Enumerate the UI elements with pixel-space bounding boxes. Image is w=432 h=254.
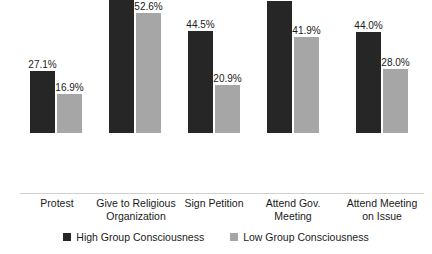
bar-group-sign-petition: 44.5% 20.9%	[184, 0, 244, 133]
x-axis-label-line: Protest	[20, 197, 94, 210]
bar-high[interactable]	[267, 1, 292, 133]
bar-low[interactable]	[383, 69, 408, 133]
bar-wrap-low[interactable]: 41.9%	[294, 0, 319, 133]
bar-low[interactable]	[57, 94, 82, 133]
bar-wrap-high[interactable]: 72.7%	[109, 0, 134, 133]
bar-group-attend-meeting-on-issue: 44.0% 28.0%	[352, 0, 412, 133]
chart-legend: High Group Consciousness Low Group Consc…	[0, 231, 432, 243]
bar-value-label: 44.0%	[354, 20, 382, 31]
bar-value-label: 28.0%	[381, 57, 409, 68]
bar-wrap-low[interactable]: 52.6%	[136, 0, 161, 133]
bar-group-give-to-religious-organization: 72.7% 52.6%	[105, 0, 165, 133]
x-axis-label-sign-petition: Sign Petition	[177, 197, 251, 210]
x-axis-label-line: Attend Gov.	[253, 197, 333, 210]
bar-wrap-low[interactable]: 20.9%	[215, 0, 240, 133]
bar-wrap-high[interactable]: 27.1%	[30, 0, 55, 133]
x-axis-label-line: Attend Meeting	[337, 197, 427, 210]
x-axis-label-line: Sign Petition	[177, 197, 251, 210]
legend-item-high-group-consciousness[interactable]: High Group Consciousness	[63, 231, 204, 243]
bar-high[interactable]	[109, 0, 134, 133]
bar-low[interactable]	[215, 85, 240, 133]
bar-high[interactable]	[188, 31, 213, 133]
bar-value-label: 20.9%	[213, 73, 241, 84]
plot-area: 27.1% 16.9% 72.7% 52.6% 44.5%	[0, 0, 432, 194]
bar-low[interactable]	[136, 13, 161, 133]
x-axis-label-line: on Issue	[337, 210, 427, 223]
legend-label: High Group Consciousness	[76, 231, 204, 243]
x-axis-label-attend-gov-meeting: Attend Gov. Meeting	[253, 197, 333, 223]
bar-wrap-high[interactable]: 57.6%	[267, 0, 292, 133]
bar-high[interactable]	[356, 32, 381, 133]
bar-value-label: 16.9%	[55, 82, 83, 93]
square-light-icon	[230, 233, 238, 241]
bar-wrap-high[interactable]: 44.5%	[188, 0, 213, 133]
bar-value-label: 41.9%	[292, 25, 320, 36]
bar-wrap-low[interactable]: 16.9%	[57, 0, 82, 133]
x-axis-label-attend-meeting-on-issue: Attend Meeting on Issue	[337, 197, 427, 223]
bar-value-label: 27.1%	[28, 59, 56, 70]
bar-high[interactable]	[30, 71, 55, 133]
bar-wrap-low[interactable]: 28.0%	[383, 0, 408, 133]
x-axis-line	[20, 193, 424, 194]
x-axis-label-line: Organization	[93, 210, 179, 223]
x-axis-label-give-to-religious-organization: Give to Religious Organization	[93, 197, 179, 223]
x-axis-label-protest: Protest	[20, 197, 94, 210]
bar-group-protest: 27.1% 16.9%	[26, 0, 86, 133]
bar-group-attend-gov-meeting: 57.6% 41.9%	[263, 0, 323, 133]
bar-chart: 27.1% 16.9% 72.7% 52.6% 44.5%	[0, 0, 432, 254]
x-axis-label-line: Meeting	[253, 210, 333, 223]
legend-item-low-group-consciousness[interactable]: Low Group Consciousness	[230, 231, 368, 243]
bar-wrap-high[interactable]: 44.0%	[356, 0, 381, 133]
bar-value-label: 44.5%	[186, 19, 214, 30]
x-axis-label-line: Give to Religious	[93, 197, 179, 210]
square-dark-icon	[63, 233, 71, 241]
legend-label: Low Group Consciousness	[243, 231, 368, 243]
bar-low[interactable]	[294, 37, 319, 133]
bar-value-label: 52.6%	[134, 1, 162, 12]
